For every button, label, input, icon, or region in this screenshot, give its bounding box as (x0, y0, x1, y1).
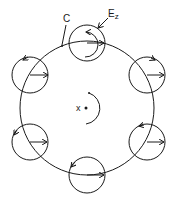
field-loop-lower-left (12, 124, 48, 160)
field-label: Ez (108, 8, 119, 21)
field-loop-upper-right (129, 57, 165, 93)
rotation-arrow-icon (85, 32, 98, 57)
contour-leader (62, 25, 66, 45)
field-loop-top (69, 25, 105, 61)
contour-label: C (63, 13, 70, 24)
center-point (85, 107, 88, 110)
field-loop-upper-left (12, 57, 48, 93)
contour-field-diagram: x C Ez (0, 0, 176, 207)
center-label: x (76, 103, 81, 113)
field-loop-lower-right (129, 124, 165, 160)
center-arc (86, 93, 100, 124)
field-leader (98, 18, 108, 28)
field-loop-bottom (69, 157, 105, 193)
